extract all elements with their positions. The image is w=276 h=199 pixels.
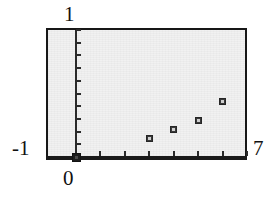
y-axis-min-label: -1 bbox=[12, 138, 30, 159]
data-point bbox=[195, 117, 202, 124]
y-axis-tick bbox=[76, 105, 81, 107]
y-axis-tick bbox=[76, 131, 81, 133]
y-axis-tick bbox=[76, 67, 81, 69]
x-axis-tick bbox=[99, 151, 101, 156]
y-axis-tick bbox=[76, 143, 81, 145]
x-axis-tick bbox=[148, 151, 150, 156]
y-axis-tick bbox=[76, 93, 81, 95]
x-axis-tick bbox=[173, 151, 175, 156]
x-axis-max-label: 7 bbox=[253, 138, 264, 159]
y-axis-max-label: 1 bbox=[64, 4, 75, 25]
x-axis-min-label: 0 bbox=[63, 168, 74, 189]
x-axis-tick bbox=[124, 151, 126, 156]
data-point bbox=[72, 153, 81, 162]
y-axis-tick bbox=[76, 42, 81, 44]
x-axis-tick bbox=[197, 151, 199, 156]
x-axis-tick bbox=[246, 151, 248, 156]
data-point bbox=[146, 135, 153, 142]
scatter-plot-figure: 1 -1 0 7 bbox=[0, 0, 276, 199]
x-axis-tick bbox=[222, 151, 224, 156]
y-axis-tick bbox=[76, 118, 81, 120]
y-axis-tick bbox=[76, 80, 81, 82]
y-axis-tick bbox=[76, 54, 81, 56]
data-point bbox=[219, 98, 226, 105]
y-axis-tick bbox=[76, 29, 81, 31]
data-point bbox=[170, 126, 177, 133]
